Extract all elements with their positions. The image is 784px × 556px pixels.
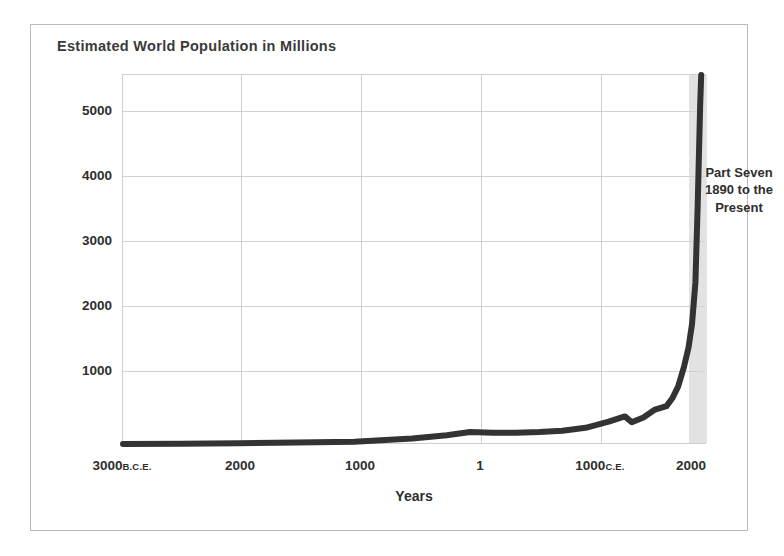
x-axis-tick-2000-bce-value: 2000 xyxy=(225,458,255,473)
x-axis-tick-3000-bce-era: B.C.E. xyxy=(122,461,151,472)
x-axis-tick-1000-bce: 1000 xyxy=(345,458,375,473)
y-axis-tick-2000: 2000 xyxy=(46,298,112,313)
y-axis-tick-3000: 3000 xyxy=(46,233,112,248)
x-axis-tick-1000-ce-era: C.E. xyxy=(605,461,624,472)
x-axis-tick-year-1: 1 xyxy=(476,458,484,473)
x-axis-tick-1000-ce: 1000C.E. xyxy=(575,458,624,473)
x-axis-tick-3000-bce-value: 3000 xyxy=(92,458,122,473)
chart-title: Estimated World Population in Millions xyxy=(57,38,336,54)
population-line-series xyxy=(123,75,707,445)
x-axis-title: Years xyxy=(122,488,706,504)
x-axis-tick-1000-bce-value: 1000 xyxy=(345,458,375,473)
x-axis-tick-2000-ce-value: 2000 xyxy=(676,458,706,473)
chart-figure: Estimated World Population in Millions 5… xyxy=(0,0,784,556)
x-axis-tick-3000-bce: 3000B.C.E. xyxy=(92,458,151,473)
x-axis-tick-year-1-value: 1 xyxy=(476,458,484,473)
annotation-part-seven: Part Seven 1890 to the Present xyxy=(671,164,784,216)
y-axis-tick-4000: 4000 xyxy=(46,168,112,183)
population-curve xyxy=(123,75,701,444)
x-axis-tick-2000-ce: 2000 xyxy=(676,458,706,473)
x-axis-tick-2000-bce: 2000 xyxy=(225,458,255,473)
plot-area: Part Seven 1890 to the Present xyxy=(122,74,706,444)
y-axis-tick-1000: 1000 xyxy=(46,363,112,378)
y-axis-tick-5000: 5000 xyxy=(46,103,112,118)
x-axis-tick-1000-ce-value: 1000 xyxy=(575,458,605,473)
